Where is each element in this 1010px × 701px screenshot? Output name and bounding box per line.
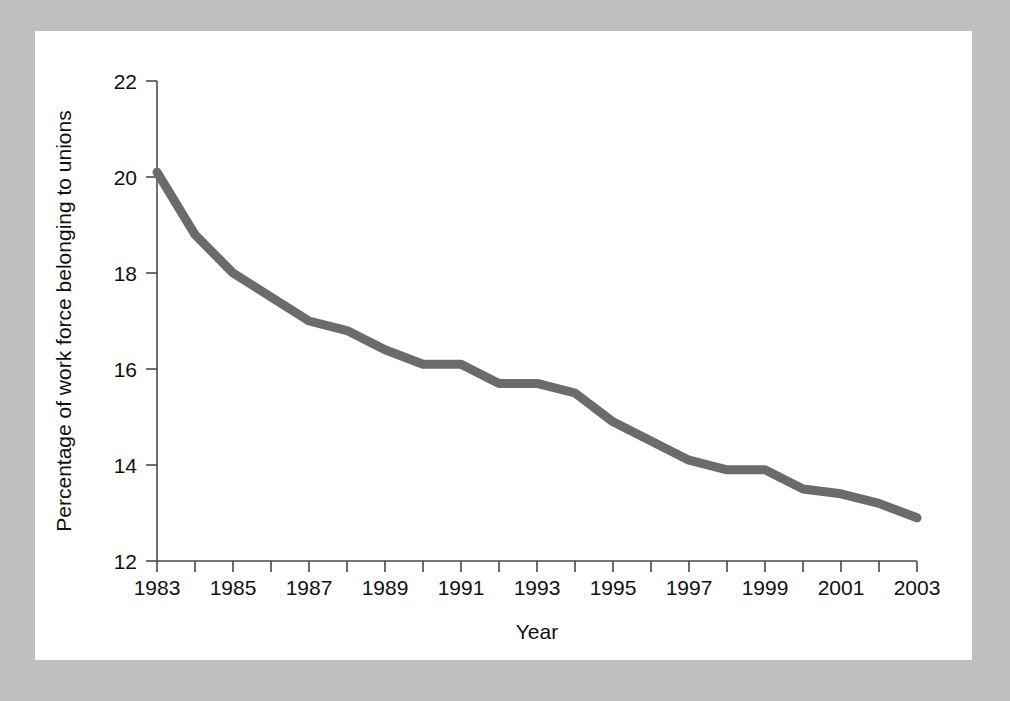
x-tick-label: 1997 (666, 576, 713, 599)
x-tick-marks (157, 561, 917, 572)
x-tick-label: 1985 (210, 576, 257, 599)
y-tick-label: 16 (114, 358, 137, 381)
x-tick-labels: 1983198519871989199119931995199719992001… (134, 576, 941, 599)
y-tick-marks (146, 81, 157, 561)
x-tick-label: 2001 (818, 576, 865, 599)
y-tick-label: 20 (114, 166, 137, 189)
y-axis-title: Percentage of work force belonging to un… (52, 110, 75, 531)
line-chart: 121416182022 198319851987198919911993199… (35, 31, 972, 660)
y-tick-label: 18 (114, 262, 137, 285)
y-tick-label: 12 (114, 550, 137, 573)
x-axis: 1983198519871989199119931995199719992001… (134, 561, 941, 599)
x-tick-label: 2003 (894, 576, 941, 599)
x-tick-label: 1983 (134, 576, 181, 599)
figure-root: 121416182022 198319851987198919911993199… (0, 0, 1010, 701)
data-series-group (157, 172, 917, 518)
x-tick-label: 1995 (590, 576, 637, 599)
x-axis-title: Year (516, 620, 558, 643)
x-tick-label: 1987 (286, 576, 333, 599)
y-tick-label: 14 (114, 454, 138, 477)
x-tick-label: 1993 (514, 576, 561, 599)
chart-card: 121416182022 198319851987198919911993199… (35, 31, 972, 660)
x-tick-label: 1989 (362, 576, 409, 599)
y-tick-labels: 121416182022 (114, 70, 138, 573)
y-tick-label: 22 (114, 70, 137, 93)
x-tick-label: 1991 (438, 576, 485, 599)
x-tick-label: 1999 (742, 576, 789, 599)
y-axis: 121416182022 (114, 70, 157, 573)
union-membership-line (157, 172, 917, 518)
